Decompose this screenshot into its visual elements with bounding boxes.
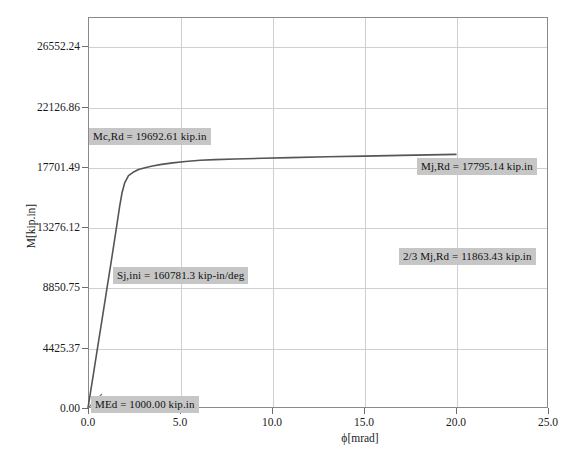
x-axis-tick-mark [272, 408, 273, 414]
annotation-mj-rd: Mj,Rd = 17795.14 kip.in [417, 158, 537, 175]
x-axis-tick-label: 10.0 [237, 416, 307, 429]
y-axis-tick-label: 26552.24 [0, 40, 80, 52]
x-axis-tick-mark [88, 408, 89, 414]
moment-rotation-curve [88, 17, 548, 408]
chart-figure: 0.004425.378850.7513276.1217701.4922126.… [0, 0, 574, 464]
y-axis-tick-label: 22126.86 [0, 101, 80, 113]
y-axis-tick-label: 4425.37 [0, 342, 80, 354]
x-axis-title: ϕ[mrad] [300, 432, 420, 444]
x-axis-tick-label: 15.0 [329, 416, 399, 429]
y-axis-tick-label: 0.00 [0, 402, 80, 414]
y-axis-title: M[kip.in] [25, 181, 37, 271]
x-axis-tick-label: 5.0 [145, 416, 215, 429]
annotation-mc-rd: Mc,Rd = 19692.61 kip.in [89, 128, 211, 145]
x-axis-tick-mark [548, 408, 549, 414]
y-axis-tick-mark [82, 408, 88, 409]
x-axis-tick-label: 0.0 [53, 416, 123, 429]
x-axis-tick-label: 20.0 [421, 416, 491, 429]
x-axis-tick-label: 25.0 [513, 416, 574, 429]
annotation-sj-ini: Sj,ini = 160781.3 kip-in/deg [113, 267, 248, 284]
annotation-med: MEd = 1000.00 kip.in [91, 396, 199, 413]
y-axis-tick-label: 13276.12 [0, 221, 80, 233]
x-axis-tick-mark [364, 408, 365, 414]
y-axis-tick-label: 8850.75 [0, 281, 80, 293]
y-axis-tick-label: 17701.49 [0, 161, 80, 173]
annotation-two-thirds-mj-rd: 2/3 Mj,Rd = 11863.43 kip.in [399, 248, 536, 265]
x-axis-tick-mark [456, 408, 457, 414]
